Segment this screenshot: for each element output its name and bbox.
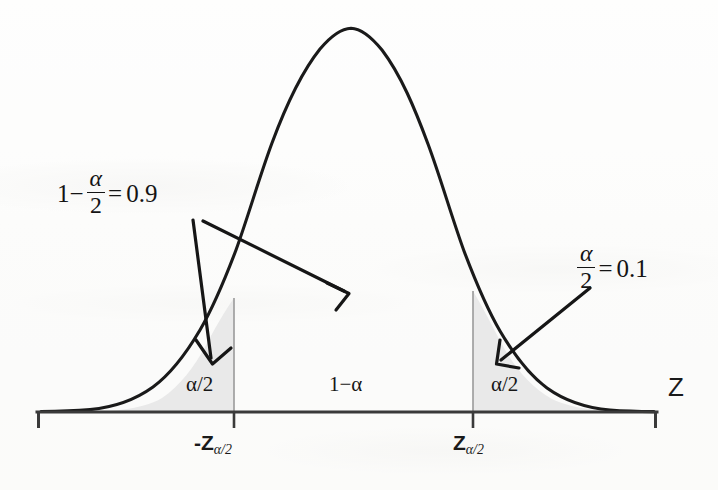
- center-region-arrow: [203, 221, 349, 310]
- normal-curve: [41, 28, 654, 411]
- fraction-numerator: α: [577, 242, 595, 267]
- left-tail-area-label: α/2: [186, 372, 213, 397]
- negative-critical-base: -Z: [194, 431, 214, 454]
- significance-level-annotation: α 2 = 0.1: [574, 243, 648, 294]
- normal-distribution-figure: 1 − α 2 = 0.9 α 2 = 0.1 α/2 1−α α/2 -Zα/…: [0, 0, 718, 490]
- alpha-over-two-fraction-right: α 2: [577, 242, 595, 293]
- negative-critical-subscript: α/2: [214, 442, 232, 457]
- right-tail-area-label: α/2: [491, 372, 518, 397]
- fraction-denominator: 2: [87, 193, 105, 218]
- confidence-minus: −: [70, 181, 84, 206]
- positive-critical-base: Z: [453, 431, 466, 454]
- fraction-denominator: 2: [577, 268, 595, 293]
- confidence-value: 0.9: [126, 181, 157, 206]
- alpha-equals: =: [598, 256, 612, 281]
- confidence-lead: 1: [57, 181, 70, 206]
- fraction-numerator: α: [87, 167, 105, 192]
- central-area-label: 1−α: [329, 372, 362, 397]
- positive-critical-value-label: Zα/2: [453, 431, 484, 458]
- right-tail-arrow: [497, 288, 591, 368]
- confidence-level-annotation: 1 − α 2 = 0.9: [57, 168, 157, 219]
- negative-critical-value-label: -Zα/2: [194, 431, 232, 458]
- z-axis-label: Z: [668, 372, 684, 403]
- alpha-over-two-fraction-left: α 2: [87, 167, 105, 218]
- positive-critical-subscript: α/2: [466, 442, 484, 457]
- alpha-value: 0.1: [617, 256, 648, 281]
- confidence-equals: =: [108, 181, 122, 206]
